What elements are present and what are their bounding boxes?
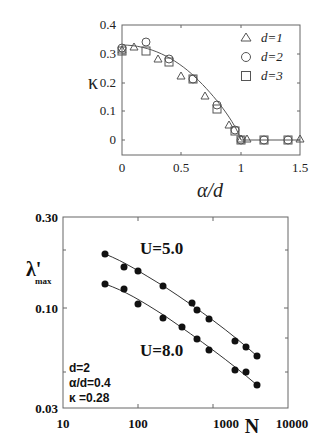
top-ylabel: κ (88, 71, 98, 93)
bottom-ytick: 0.03 (35, 401, 58, 416)
top-ytick: 0.4 (100, 17, 117, 32)
top-ytick: 0.3 (100, 46, 116, 61)
annotation-alpha: α/d=0.4 (69, 376, 111, 390)
bottom-xtick: 100 (128, 416, 148, 431)
legend-d1: d=1 (261, 30, 283, 45)
top-xtick: 1.5 (292, 160, 308, 175)
bottom-ytick: 0.10 (35, 301, 58, 316)
label-u8: U=8.0 (140, 341, 183, 360)
annotation-kappa: κ =0.28 (69, 391, 110, 405)
bottom-xtick: 10000 (276, 416, 309, 431)
legend-d3: d=3 (261, 68, 283, 83)
top-ytick: 0.1 (100, 103, 116, 118)
bottom-ytick: 0.30 (35, 210, 58, 225)
figure: 0.4 0.3 0.2 0.1 0 0 0.5 1 1.5 κ α/d (0, 0, 323, 442)
bottom-xtick: 1000 (213, 416, 239, 431)
top-ytick: 0 (110, 132, 117, 147)
bottom-xtick: 10 (57, 416, 70, 431)
top-xlabel: α/d (197, 179, 224, 201)
annotation-d: d=2 (69, 361, 90, 375)
top-ytick: 0.2 (100, 75, 116, 90)
top-xtick: 1 (238, 160, 245, 175)
bottom-ylabel-sub: max (35, 276, 52, 286)
label-u5: U=5.0 (140, 239, 183, 258)
legend-d2: d=2 (261, 49, 283, 64)
top-xtick: 0.5 (173, 160, 189, 175)
kappa-chart: 0.4 0.3 0.2 0.1 0 0 0.5 1 1.5 κ α/d (88, 17, 308, 201)
series-u8-markers (102, 281, 261, 389)
top-legend: d=1 d=2 d=3 (241, 30, 283, 83)
lambda-chart: 0.30 0.10 0.03 10 100 1000 10000 N λ' ma… (26, 210, 308, 437)
top-xtick: 0 (119, 160, 126, 175)
bottom-xlabel: N (245, 415, 260, 437)
